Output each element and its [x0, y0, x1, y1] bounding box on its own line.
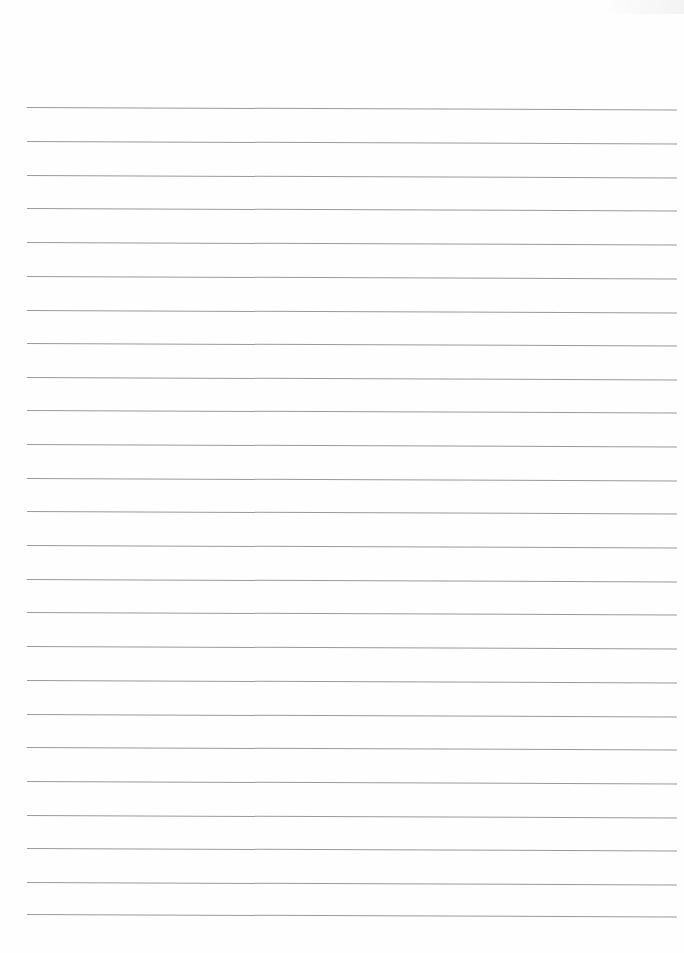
ruled-line: [27, 175, 677, 178]
ruled-line: [27, 310, 677, 313]
ruled-line: [27, 276, 677, 279]
ruled-line: [27, 141, 677, 144]
ruled-line: [27, 208, 677, 211]
ruled-line: [27, 882, 677, 885]
ruled-line: [27, 478, 677, 481]
ruled-line: [27, 579, 677, 582]
ruled-line: [27, 714, 677, 717]
ruled-line: [27, 848, 677, 851]
ruled-line: [27, 646, 677, 649]
ruled-line: [27, 815, 677, 818]
ruled-line: [27, 612, 677, 615]
ruled-line: [27, 781, 677, 784]
ruled-line: [27, 343, 677, 346]
page-corner-shadow: [604, 0, 684, 14]
ruled-line: [27, 377, 677, 380]
ruled-line: [27, 410, 677, 413]
ruled-line: [27, 680, 677, 683]
ruled-line: [27, 747, 677, 750]
ruled-line: [27, 545, 677, 548]
ruled-line: [27, 242, 677, 245]
lined-paper-page: [0, 0, 684, 953]
ruled-line: [27, 914, 677, 917]
ruled-line: [27, 444, 677, 447]
ruled-line: [27, 107, 677, 110]
ruled-line: [27, 511, 677, 514]
